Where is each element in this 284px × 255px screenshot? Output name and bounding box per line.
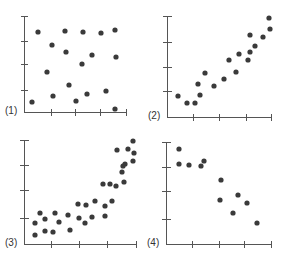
scatter-point-panel-1 xyxy=(113,54,118,59)
scatter-point-panel-2 xyxy=(233,69,238,74)
scatter-point-panel-4 xyxy=(217,197,222,202)
scatter-point-panel-3 xyxy=(122,161,127,166)
scatter-point-panel-3 xyxy=(130,158,135,163)
scatter-point-panel-1 xyxy=(89,52,94,57)
scatter-point-panel-2 xyxy=(175,93,180,98)
scatter-point-panel-2 xyxy=(195,81,200,86)
scatter-point-panel-4 xyxy=(186,162,191,167)
scatter-point-panel-3 xyxy=(92,198,97,203)
scatter-point-panel-3 xyxy=(107,181,112,186)
panel-4-label: (4) xyxy=(147,237,159,248)
panel-1-label: (1) xyxy=(5,105,17,116)
scatter-point-panel-1 xyxy=(73,98,78,103)
scatter-point-panel-1 xyxy=(63,49,68,54)
scatter-point-panel-1 xyxy=(29,99,34,104)
scatter-point-panel-1 xyxy=(98,30,103,35)
scatter-point-panel-3 xyxy=(65,212,70,217)
scatter-point-panel-3 xyxy=(102,203,107,208)
scatter-point-panel-4 xyxy=(244,200,249,205)
scatter-point-panel-3 xyxy=(113,183,118,188)
scatter-point-panel-1 xyxy=(35,29,40,34)
scatter-point-panel-1 xyxy=(79,61,84,66)
scatter-point-panel-2 xyxy=(226,57,231,62)
scatter-point-panel-2 xyxy=(197,92,202,97)
panel-3-axes xyxy=(20,140,137,248)
panel-4-axes xyxy=(162,142,272,248)
scatter-point-panel-2 xyxy=(236,51,241,56)
scatter-point-panel-4 xyxy=(218,177,223,182)
scatter-point-panel-3 xyxy=(125,146,130,151)
scatter-point-panel-3 xyxy=(114,147,119,152)
scatter-point-panel-3 xyxy=(109,198,114,203)
scatter-point-panel-3 xyxy=(102,213,107,218)
scatter-point-panel-3 xyxy=(89,214,94,219)
scatter-point-panel-3 xyxy=(119,169,124,174)
scatter-point-panel-2 xyxy=(221,76,226,81)
scatter-point-panel-3 xyxy=(50,229,55,234)
scatter-point-panel-4 xyxy=(176,161,181,166)
panel-2-label: (2) xyxy=(148,110,160,121)
scatter-point-panel-2 xyxy=(247,32,252,37)
scatter-point-panel-1 xyxy=(84,91,89,96)
scatter-point-panel-3 xyxy=(32,232,37,237)
scatter-point-panel-2 xyxy=(184,100,189,105)
scatter-point-panel-3 xyxy=(83,202,88,207)
scatter-point-panel-3 xyxy=(42,228,47,233)
scatter-point-panel-4 xyxy=(198,163,203,168)
scatter-plots-canvas xyxy=(0,0,284,255)
scatter-point-panel-3 xyxy=(75,201,80,206)
scatter-point-panel-1 xyxy=(80,29,85,34)
scatter-point-panel-2 xyxy=(245,57,250,62)
scatter-point-panel-2 xyxy=(260,34,265,39)
panel-3-label: (3) xyxy=(5,237,17,248)
scatter-point-panel-2 xyxy=(266,15,271,20)
scatter-point-panel-1 xyxy=(66,82,71,87)
scatter-point-panel-4 xyxy=(235,192,240,197)
scatter-point-panel-3 xyxy=(130,138,135,143)
scatter-point-panel-3 xyxy=(42,216,47,221)
scatter-points xyxy=(29,15,272,237)
scatter-point-panel-4 xyxy=(230,210,235,215)
scatter-point-panel-2 xyxy=(211,83,216,88)
scatter-point-panel-1 xyxy=(49,42,54,47)
panel-2-axes xyxy=(163,16,272,121)
scatter-point-panel-1 xyxy=(44,69,49,74)
scatter-point-panel-3 xyxy=(37,210,42,215)
scatter-point-panel-4 xyxy=(254,220,259,225)
scatter-point-panel-3 xyxy=(121,179,126,184)
scatter-point-panel-2 xyxy=(267,26,272,31)
scatter-point-panel-3 xyxy=(82,220,87,225)
scatter-point-panel-1 xyxy=(50,93,55,98)
scatter-point-panel-4 xyxy=(201,158,206,163)
scatter-point-panel-1 xyxy=(112,27,117,32)
scatter-point-panel-1 xyxy=(62,28,67,33)
scatter-point-panel-3 xyxy=(32,220,37,225)
scatter-point-panel-3 xyxy=(67,227,72,232)
scatter-point-panel-3 xyxy=(52,210,57,215)
scatter-point-panel-2 xyxy=(202,70,207,75)
scatter-point-panel-2 xyxy=(252,43,257,48)
scatter-point-panel-1 xyxy=(112,106,117,111)
scatter-point-panel-3 xyxy=(100,181,105,186)
scatter-point-panel-2 xyxy=(192,100,197,105)
scatter-point-panel-1 xyxy=(103,88,108,93)
scatter-point-panel-2 xyxy=(247,49,252,54)
scatter-point-panel-3 xyxy=(56,219,61,224)
scatter-point-panel-4 xyxy=(176,146,181,151)
scatter-point-panel-3 xyxy=(131,150,136,155)
scatter-point-panel-3 xyxy=(76,215,81,220)
